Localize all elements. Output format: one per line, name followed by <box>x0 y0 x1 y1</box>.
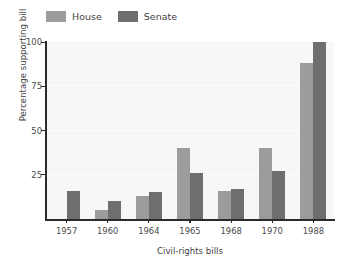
x-tick-label: 1988 <box>293 226 333 236</box>
legend-entry-house: House <box>46 11 102 22</box>
x-axis-label: Civil-rights bills <box>45 246 335 256</box>
x-tick-1988: 1988 <box>293 219 333 236</box>
legend-swatch-senate <box>118 11 138 22</box>
x-tick-mark <box>107 219 108 223</box>
bar-group-1965[interactable] <box>169 42 210 219</box>
x-tick-mark <box>313 219 314 223</box>
bar-senate-1960[interactable] <box>108 201 121 219</box>
y-tick-50: 50 <box>0 126 45 136</box>
y-tick-mark <box>41 42 45 43</box>
bar-group-1960[interactable] <box>87 42 128 219</box>
bar-group-1964[interactable] <box>128 42 169 219</box>
y-tick-mark <box>41 130 45 131</box>
x-tick-mark <box>148 219 149 223</box>
bar-senate-1965[interactable] <box>190 173 203 219</box>
y-tick-100: 100 <box>0 37 45 47</box>
legend-label-senate: Senate <box>144 11 177 22</box>
x-tick-label: 1965 <box>170 226 210 236</box>
plot-area <box>46 42 334 219</box>
y-tick-mark <box>41 174 45 175</box>
y-tick-25: 25 <box>0 170 45 180</box>
bar-group-1957[interactable] <box>46 42 87 219</box>
y-tick-75: 75 <box>0 81 45 91</box>
bar-senate-1964[interactable] <box>149 192 162 219</box>
x-tick-1964: 1964 <box>129 219 169 236</box>
bar-group-1968[interactable] <box>211 42 252 219</box>
bar-senate-1968[interactable] <box>231 189 244 219</box>
x-tick-label: 1964 <box>129 226 169 236</box>
x-tick-1965: 1965 <box>170 219 210 236</box>
bar-senate-1957[interactable] <box>67 191 80 219</box>
bar-group-1970[interactable] <box>252 42 293 219</box>
bar-chart-figure: House Senate Percentage supporting bill … <box>0 0 349 265</box>
bar-house-1964[interactable] <box>136 196 149 219</box>
x-tick-mark <box>231 219 232 223</box>
x-tick-label: 1957 <box>47 226 87 236</box>
bar-senate-1970[interactable] <box>272 171 285 219</box>
x-tick-mark <box>66 219 67 223</box>
bar-house-1965[interactable] <box>177 148 190 219</box>
legend-entry-senate: Senate <box>118 11 177 22</box>
x-tick-label: 1968 <box>211 226 251 236</box>
y-axis-label: Percentage supporting bill <box>18 0 28 145</box>
bar-house-1960[interactable] <box>95 210 108 219</box>
x-tick-1968: 1968 <box>211 219 251 236</box>
y-axis-line <box>45 41 47 220</box>
chart-legend: House Senate <box>46 8 177 24</box>
bar-house-1988[interactable] <box>300 63 313 219</box>
bar-group-1988[interactable] <box>293 42 334 219</box>
y-tick-mark <box>41 86 45 87</box>
bar-house-1968[interactable] <box>218 191 231 219</box>
bar-senate-1988[interactable] <box>313 42 326 219</box>
x-tick-1957: 1957 <box>47 219 87 236</box>
x-tick-mark <box>272 219 273 223</box>
x-tick-label: 1960 <box>88 226 128 236</box>
x-tick-label: 1970 <box>252 226 292 236</box>
bar-house-1970[interactable] <box>259 148 272 219</box>
x-tick-1970: 1970 <box>252 219 292 236</box>
legend-label-house: House <box>72 11 102 22</box>
x-tick-1960: 1960 <box>88 219 128 236</box>
x-tick-mark <box>189 219 190 223</box>
legend-swatch-house <box>46 11 66 22</box>
